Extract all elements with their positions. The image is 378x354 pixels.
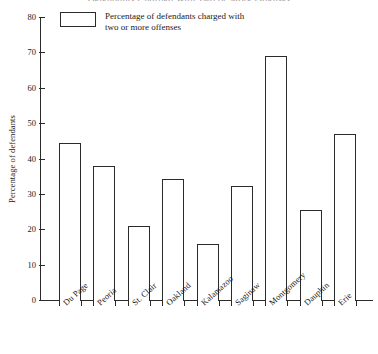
y-axis-title: Percentage of defendants <box>7 115 17 203</box>
legend-label-line2: two or more offenses <box>105 22 244 33</box>
y-tick-label: 50 <box>28 119 37 128</box>
y-tick-label: 0 <box>32 296 36 305</box>
chart-title: Defendants Charged With Two or More Offe… <box>0 0 378 1</box>
plot-area: 01020304050607080 Percentage of defendan… <box>40 17 372 300</box>
bar <box>93 166 115 301</box>
y-tick-label: 60 <box>28 84 37 93</box>
y-tick-label: 40 <box>28 154 37 163</box>
bar <box>59 143 81 301</box>
y-tick-label: 70 <box>28 48 37 57</box>
bar <box>334 134 356 301</box>
y-tick-label: 80 <box>28 13 37 22</box>
y-tick-label: 20 <box>28 225 37 234</box>
legend-label: Percentage of defendants charged with tw… <box>105 11 244 33</box>
y-tick-label: 10 <box>28 260 37 269</box>
bar-series <box>40 17 373 301</box>
bar-chart: Defendants Charged With Two or More Offe… <box>0 0 378 354</box>
bar <box>162 179 184 301</box>
y-tick-label: 30 <box>28 190 37 199</box>
chart-legend: Percentage of defendants charged with tw… <box>60 11 244 33</box>
x-axis-labels: Du PagePeoriaSt. ClairOaklandKalamazooSa… <box>40 300 378 354</box>
legend-swatch-icon <box>60 12 96 27</box>
bar <box>265 56 287 301</box>
legend-label-line1: Percentage of defendants charged with <box>105 11 244 22</box>
